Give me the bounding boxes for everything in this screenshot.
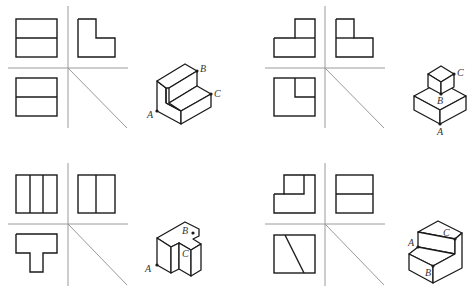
isometric-solid: A B C (146, 63, 221, 124)
label-c: C (182, 248, 189, 259)
side-view (78, 175, 115, 213)
label-a: A (144, 263, 152, 274)
front-view (274, 19, 315, 57)
panel-top-left: A B C (8, 6, 221, 128)
label-b: B (425, 267, 431, 278)
panel-bottom-left: A B C (8, 163, 201, 286)
front-view (16, 175, 57, 213)
label-c: C (443, 227, 450, 238)
projection-axes (265, 6, 385, 128)
label-a: A (436, 126, 444, 137)
projection-axes (8, 163, 128, 286)
front-view (274, 175, 315, 213)
isometric-solid: A C B (407, 221, 462, 283)
side-view (336, 175, 373, 213)
top-view (274, 78, 315, 116)
diagram-canvas: A B C (0, 0, 470, 293)
label-b: B (182, 225, 188, 236)
label-b: B (200, 63, 206, 74)
isometric-solid: A B C (144, 222, 201, 276)
projection-axes (265, 163, 385, 286)
isometric-solid: B C A (414, 66, 466, 137)
side-view (336, 19, 373, 57)
label-c: C (214, 88, 221, 99)
label-a: A (407, 237, 415, 248)
top-view (16, 78, 57, 116)
projection-axes (8, 6, 128, 128)
label-c: C (457, 67, 464, 78)
front-view (16, 19, 57, 57)
top-view (274, 235, 315, 273)
side-view (78, 19, 115, 57)
label-a: A (146, 109, 154, 120)
label-b: B (437, 95, 443, 106)
panel-top-right: B C A (265, 6, 466, 137)
top-view (16, 234, 57, 272)
panel-bottom-right: A C B (265, 163, 462, 286)
